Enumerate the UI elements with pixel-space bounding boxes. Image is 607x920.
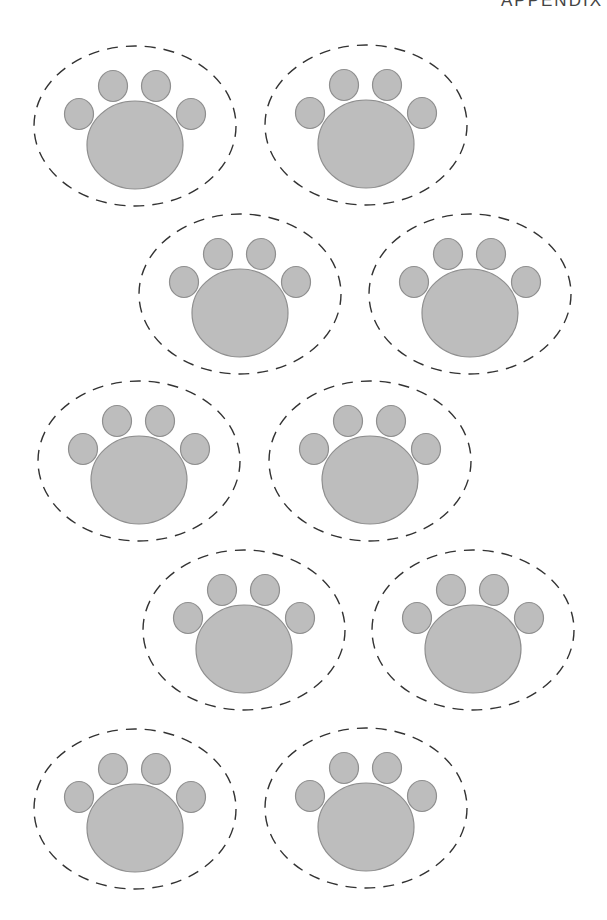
toe-pad xyxy=(437,575,466,606)
toe-pad xyxy=(170,267,199,298)
paw-print xyxy=(34,729,236,889)
paw-print xyxy=(372,550,574,710)
toe-pad xyxy=(330,753,359,784)
toe-pad xyxy=(403,603,432,634)
paw-print xyxy=(38,381,240,541)
toe-pad xyxy=(408,781,437,812)
toe-pad xyxy=(177,782,206,813)
main-pad xyxy=(196,605,292,693)
paw-print xyxy=(265,728,467,888)
paw-print xyxy=(269,381,471,541)
main-pad xyxy=(87,101,183,189)
paw-print xyxy=(143,550,345,710)
paw-print xyxy=(369,214,571,374)
toe-pad xyxy=(146,406,175,437)
toe-pad xyxy=(142,71,171,102)
toe-pad xyxy=(300,434,329,465)
toe-pad xyxy=(400,267,429,298)
main-pad xyxy=(318,783,414,871)
toe-pad xyxy=(282,267,311,298)
toe-pad xyxy=(477,239,506,270)
toe-pad xyxy=(373,70,402,101)
toe-pad xyxy=(65,99,94,130)
toe-pad xyxy=(99,754,128,785)
toe-pad xyxy=(377,406,406,437)
main-pad xyxy=(91,436,187,524)
main-pad xyxy=(192,269,288,357)
toe-pad xyxy=(286,603,315,634)
paw-print-sheet xyxy=(0,0,607,920)
toe-pad xyxy=(247,239,276,270)
toe-pad xyxy=(174,603,203,634)
toe-pad xyxy=(69,434,98,465)
toe-pad xyxy=(373,753,402,784)
toe-pad xyxy=(296,781,325,812)
toe-pad xyxy=(515,603,544,634)
paw-print xyxy=(139,214,341,374)
toe-pad xyxy=(251,575,280,606)
toe-pad xyxy=(412,434,441,465)
toe-pad xyxy=(103,406,132,437)
toe-pad xyxy=(204,239,233,270)
toe-pad xyxy=(334,406,363,437)
main-pad xyxy=(425,605,521,693)
toe-pad xyxy=(408,98,437,129)
toe-pad xyxy=(65,782,94,813)
main-pad xyxy=(87,784,183,872)
paw-print xyxy=(265,45,467,205)
toe-pad xyxy=(512,267,541,298)
toe-pad xyxy=(434,239,463,270)
toe-pad xyxy=(480,575,509,606)
toe-pad xyxy=(330,70,359,101)
toe-pad xyxy=(208,575,237,606)
paw-print xyxy=(34,46,236,206)
toe-pad xyxy=(142,754,171,785)
toe-pad xyxy=(181,434,210,465)
main-pad xyxy=(322,436,418,524)
toe-pad xyxy=(99,71,128,102)
main-pad xyxy=(318,100,414,188)
toe-pad xyxy=(296,98,325,129)
toe-pad xyxy=(177,99,206,130)
main-pad xyxy=(422,269,518,357)
